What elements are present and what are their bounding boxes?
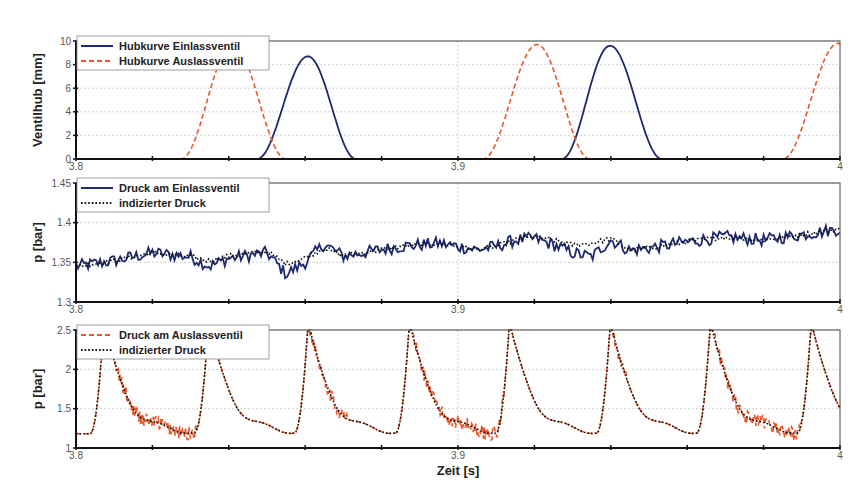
- y-tick-label: 8: [65, 59, 71, 70]
- x-tick-label: 3.8: [69, 304, 83, 315]
- y-tick-label: 10: [60, 36, 72, 47]
- x-tick-label: 3.8: [69, 161, 83, 172]
- exhaust-pressure-y-axis-title: p [bar]: [30, 369, 45, 409]
- x-tick-label: 3.9: [451, 304, 465, 315]
- x-axis-title: Zeit [s]: [437, 463, 480, 478]
- legend-label-indicated-pressure: indizierter Druck: [119, 197, 207, 209]
- exhaust-pressure-y-ticks: 11.522.5: [57, 325, 78, 454]
- x-tick-label: 4: [837, 304, 843, 315]
- y-tick-label: 1.4: [57, 217, 71, 228]
- y-tick-label: 1.35: [52, 257, 72, 268]
- x-tick-label: 3.8: [69, 450, 83, 461]
- y-tick-label: 1.5: [57, 403, 71, 414]
- legend-label-exhaust-lift: Hubkurve Auslassventil: [119, 55, 243, 67]
- x-tick-label: 3.9: [451, 450, 465, 461]
- legend-label-intake-lift: Hubkurve Einlassventil: [119, 40, 240, 52]
- legend-label-indicated-pressure: indizierter Druck: [119, 344, 207, 356]
- y-tick-label: 6: [65, 83, 71, 94]
- y-tick-label: 2: [65, 130, 71, 141]
- engine-valve-chart: 0246810 3.83.94 Ventilhub [mm] Hubkurve …: [0, 0, 863, 500]
- intake-pressure-panel: 1.31.351.41.45 3.83.94 p [bar] Druck am …: [30, 178, 843, 316]
- x-tick-label: 3.9: [451, 161, 465, 172]
- valve-lift-panel: 0246810 3.83.94 Ventilhub [mm] Hubkurve …: [30, 36, 843, 173]
- valve-lift-legend: Hubkurve Einlassventil Hubkurve Auslassv…: [77, 36, 269, 70]
- valve-lift-y-axis-title: Ventilhub [mm]: [30, 53, 45, 147]
- legend-label-intake-pressure: Druck am Einlassventil: [119, 182, 239, 194]
- exhaust-pressure-legend: Druck am Auslassventil indizierter Druck: [77, 325, 269, 359]
- exhaust-pressure-panel: 11.522.5 3.83.94 p [bar] Zeit [s] Druck …: [30, 325, 843, 479]
- intake-pressure-legend: Druck am Einlassventil indizierter Druck: [77, 178, 269, 212]
- y-tick-label: 1.45: [52, 178, 72, 189]
- x-tick-label: 4: [837, 161, 843, 172]
- intake-pressure-y-axis-title: p [bar]: [30, 222, 45, 262]
- y-tick-label: 2.5: [57, 325, 71, 336]
- y-tick-label: 4: [65, 106, 71, 117]
- intake-pressure-y-ticks: 1.31.351.41.45: [52, 178, 78, 308]
- legend-label-exhaust-pressure: Druck am Auslassventil: [119, 329, 243, 341]
- x-tick-label: 4: [837, 450, 843, 461]
- y-tick-label: 2: [65, 364, 71, 375]
